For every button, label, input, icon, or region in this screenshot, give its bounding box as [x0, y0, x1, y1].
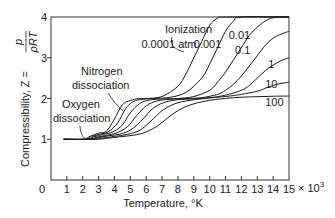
curve-label: 10 [265, 78, 277, 90]
y-tick-label: 3 [41, 52, 47, 64]
curve-label: 0.1 [235, 44, 250, 56]
compressibility-chart: 0123456789101112131415 1234 0.0001 atm0.… [0, 0, 335, 218]
x-tick-label: 1 [64, 183, 70, 195]
x-tick-label: 8 [175, 183, 181, 195]
annotation-nitrogen-line1: Nitrogen [81, 65, 123, 77]
annotation-nitrogen-line2: dissociation [72, 79, 129, 91]
x-tick-label: 0 [39, 183, 45, 195]
y-tick-label: 1 [41, 133, 47, 145]
annotation-oxygen-arrow [80, 126, 85, 139]
x-tick-label: 10 [204, 183, 216, 195]
x-axis-multiplier: × 103 [298, 180, 325, 194]
x-tick-label: 13 [251, 183, 263, 195]
x-axis-title: Temperature, °K [123, 197, 203, 209]
x-tick-label: 3 [96, 183, 102, 195]
x-tick-label: 6 [143, 183, 149, 195]
curve-label: 0.0001 atm [141, 38, 196, 50]
curve-label: 0.001 [194, 38, 222, 50]
curve-label: 100 [265, 96, 283, 108]
curve-label: 1 [268, 58, 274, 70]
x-tick-label: 14 [267, 183, 279, 195]
x-tick-label: 5 [127, 183, 133, 195]
annotation-ionization: Ionization [165, 23, 212, 35]
y-axis-ticks: 1234 [41, 11, 51, 145]
annotation-nitrogen-arrow [108, 93, 123, 111]
curve-label: 0.01 [229, 29, 250, 41]
x-tick-label: 7 [159, 183, 165, 195]
y-axis-title: Compressibility, Z = p ρRT [12, 30, 39, 167]
x-tick-label: 9 [191, 183, 197, 195]
x-axis-ticks: 0123456789101112131415 [39, 176, 295, 195]
annotation-oxygen-line1: Oxygen [62, 98, 100, 110]
svg-text:Compressibility, Z =: Compressibility, Z = [19, 71, 31, 167]
y-tick-label: 4 [41, 11, 47, 23]
annotation-oxygen-line2: dissociation [53, 112, 110, 124]
x-tick-label: 12 [235, 183, 247, 195]
y-tick-label: 2 [41, 93, 47, 105]
svg-text:p: p [12, 39, 24, 46]
x-tick-label: 15 [283, 183, 295, 195]
svg-text:ρRT: ρRT [27, 30, 39, 53]
x-tick-label: 4 [111, 183, 117, 195]
x-tick-label: 11 [220, 183, 231, 195]
x-tick-label: 2 [80, 183, 86, 195]
